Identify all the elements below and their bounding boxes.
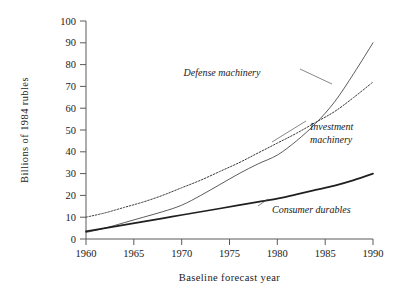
leader-line-defense	[300, 69, 332, 84]
x-axis-ticks	[86, 239, 373, 245]
x-tick-label: 1985	[315, 248, 336, 259]
y-tick-label: 40	[66, 146, 77, 157]
series-label-consumer-durables: Consumer durables	[272, 204, 351, 215]
x-tick-label: 1975	[219, 248, 240, 259]
x-tick-label: 1990	[363, 248, 384, 259]
y-axis-ticks	[80, 21, 86, 239]
y-axis-title: Billions of 1984 rubles	[19, 77, 30, 183]
y-tick-label: 60	[66, 103, 77, 114]
leader-line-investment	[272, 121, 306, 142]
y-tick-label: 100	[60, 16, 76, 27]
x-axis-title: Baseline forecast year	[179, 272, 281, 283]
series-label-defense-machinery: Defense machinery	[183, 67, 261, 78]
series-label-investment-machinery-line1: Investment	[309, 121, 354, 132]
y-tick-label: 70	[66, 81, 77, 92]
y-tick-label: 90	[66, 37, 77, 48]
series-line-consumer-durables	[86, 174, 373, 232]
series-label-investment-machinery-line2: machinery	[310, 134, 353, 145]
y-tick-label: 10	[66, 212, 77, 223]
y-tick-label: 50	[66, 125, 77, 136]
y-tick-label: 30	[66, 168, 77, 179]
x-axis-tick-labels: 1960 1965 1970 1975 1980 1985 1990	[76, 248, 384, 259]
y-tick-label: 80	[66, 59, 77, 70]
y-axis-tick-labels: 0 10 20 30 40 50 60 70 80 90 100	[60, 16, 76, 245]
series-line-investment-machinery	[86, 82, 373, 217]
chart-container: 0 10 20 30 40 50 60 70 80 90 100 1960 19…	[0, 0, 399, 295]
x-tick-label: 1980	[267, 248, 288, 259]
x-tick-label: 1960	[76, 248, 97, 259]
line-chart: 0 10 20 30 40 50 60 70 80 90 100 1960 19…	[0, 0, 399, 295]
x-tick-label: 1970	[171, 248, 192, 259]
y-tick-label: 0	[71, 234, 76, 245]
x-tick-label: 1965	[123, 248, 144, 259]
y-tick-label: 20	[66, 190, 77, 201]
